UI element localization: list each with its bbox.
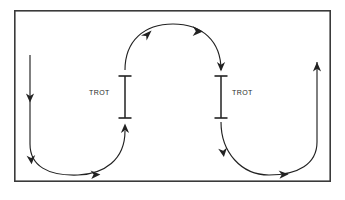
trot-label-right: TROT <box>232 89 253 96</box>
trot-label-left: TROT <box>89 89 110 96</box>
arena-pattern-svg <box>0 0 345 200</box>
diagram-figure: TROT TROT <box>0 0 345 200</box>
arena-border <box>15 11 330 181</box>
